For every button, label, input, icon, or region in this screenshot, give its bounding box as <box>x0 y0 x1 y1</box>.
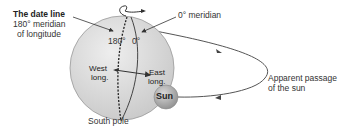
date-line-desc-2: of longitude <box>17 30 61 40</box>
label-180: 180° <box>108 37 126 47</box>
east-label-2: long. <box>148 77 165 87</box>
label-0: 0° <box>132 37 140 47</box>
rotation-arrow-icon <box>120 6 144 16</box>
prime-meridian-label: 0° meridian <box>178 11 221 21</box>
south-pole-label: South pole <box>88 117 129 127</box>
west-label-2: long. <box>91 73 108 83</box>
sun-path-label-2: of the sun <box>268 84 305 94</box>
sun-label: Sun <box>156 92 173 102</box>
orbit-arrow-upper <box>216 49 222 53</box>
